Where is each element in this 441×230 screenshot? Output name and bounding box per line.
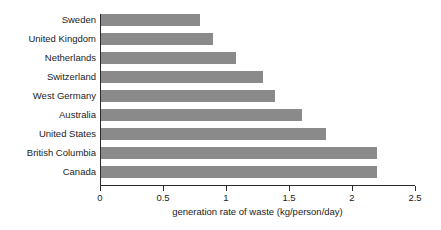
y-axis-tick-label: Sweden <box>0 14 96 26</box>
bar-chart: Sweden United Kingdom Netherlands Switze… <box>0 0 441 230</box>
bar <box>100 33 213 45</box>
x-axis-tick-label: 1.5 <box>269 192 309 203</box>
x-axis-tick <box>226 186 227 191</box>
x-axis-tick-label: 2 <box>332 192 372 203</box>
y-axis-tick-label: Switzerland <box>0 71 96 83</box>
y-axis-category-labels: Sweden United Kingdom Netherlands Switze… <box>0 14 96 185</box>
bar <box>100 128 326 140</box>
x-axis-tick-label: 1 <box>206 192 246 203</box>
y-axis-tick-label: Australia <box>0 109 96 121</box>
x-axis-tick <box>415 186 416 191</box>
plot-area <box>100 14 415 185</box>
y-axis-tick-label: Netherlands <box>0 52 96 64</box>
bar <box>100 90 275 102</box>
y-axis-line <box>100 14 101 185</box>
y-axis-tick-label: West Germany <box>0 90 96 102</box>
x-axis-tick-label: 0 <box>80 192 120 203</box>
x-axis-tick-label: 2.5 <box>395 192 435 203</box>
bar <box>100 71 263 83</box>
x-axis-tick <box>352 186 353 191</box>
y-axis-tick-label: United Kingdom <box>0 33 96 45</box>
bar <box>100 147 377 159</box>
x-axis-title: generation rate of waste (kg/person/day) <box>100 206 415 217</box>
x-axis-tick-label: 0.5 <box>143 192 183 203</box>
bar <box>100 166 377 178</box>
y-axis-tick-label: Canada <box>0 166 96 178</box>
bar <box>100 109 302 121</box>
y-axis-tick-label: British Columbia <box>0 147 96 159</box>
x-axis-tick <box>163 186 164 191</box>
bar <box>100 14 200 26</box>
x-axis-tick <box>289 186 290 191</box>
y-axis-tick-label: United States <box>0 128 96 140</box>
bar <box>100 52 236 64</box>
x-axis-line <box>100 185 415 186</box>
x-axis-tick <box>100 186 101 191</box>
